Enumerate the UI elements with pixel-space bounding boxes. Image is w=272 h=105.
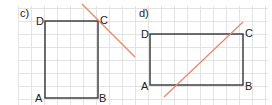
red-line [164,22,243,97]
red-line [82,4,135,57]
vertex-label-a: A [141,80,149,92]
vertex-label-a: A [35,92,43,104]
panel-d: d) D C A B [139,7,253,97]
vertex-label-c: C [100,14,108,26]
diagram-canvas: c) D C A B d) D C A B [0,0,272,105]
vertex-label-b: B [245,80,252,92]
vertex-label-d: D [36,15,44,27]
panel-c: c) D C A B [20,4,135,104]
panel-label: d) [139,7,149,19]
vertex-label-b: B [99,92,106,104]
vertex-label-d: D [141,28,149,40]
rectangle-abcd [150,34,243,85]
vertex-label-c: C [245,27,253,39]
panel-label: c) [20,7,29,19]
